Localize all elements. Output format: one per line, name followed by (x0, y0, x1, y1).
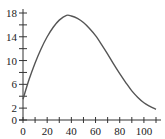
y-tick-label: 10 (6, 55, 18, 67)
y-tick-label: 2 (12, 102, 18, 114)
x-tick-label: 40 (66, 125, 78, 137)
series-line-curve (23, 15, 156, 109)
x-tick-label: 60 (90, 125, 102, 137)
x-tick-label: 20 (42, 125, 54, 137)
y-tick-label: 14 (6, 31, 18, 43)
line-chart: 020406080100 026101418 (0, 0, 165, 139)
y-tick-label: 0 (12, 114, 18, 126)
y-tick-label: 18 (6, 7, 18, 19)
x-tick-label: 80 (114, 125, 126, 137)
x-tick-label: 0 (20, 125, 26, 137)
y-tick-label: 6 (12, 78, 18, 90)
x-tick-label: 100 (136, 125, 153, 137)
y-tick-labels: 026101418 (6, 7, 18, 126)
x-tick-labels: 020406080100 (20, 125, 152, 137)
